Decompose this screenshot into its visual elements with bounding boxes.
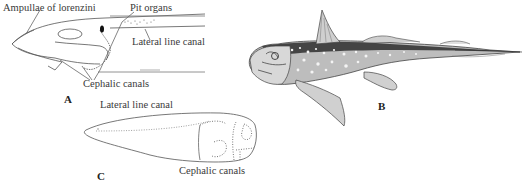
label-lateral-line-canal-c: Lateral line canal — [100, 99, 173, 110]
label-cephalic-canals-a: Cephalic canals — [83, 78, 149, 89]
label-lateral-line-canal-a: Lateral line canal — [132, 36, 205, 47]
label-pit-organs: Pit organs — [130, 2, 172, 13]
panel-c-drawing — [84, 113, 256, 162]
panel-label-a: A — [64, 93, 72, 105]
panel-label-c: C — [97, 170, 105, 182]
panel-label-b: B — [378, 100, 385, 112]
panel-b-drawing — [249, 10, 522, 126]
label-cephalic-canals-c: Cephalic canals — [179, 165, 245, 176]
label-ampullae-of-lorenzini: Ampullae of lorenzini — [3, 2, 96, 13]
figure: Ampullae of lorenzini Pit organs Lateral… — [0, 0, 525, 185]
figure-drawings — [0, 0, 525, 185]
